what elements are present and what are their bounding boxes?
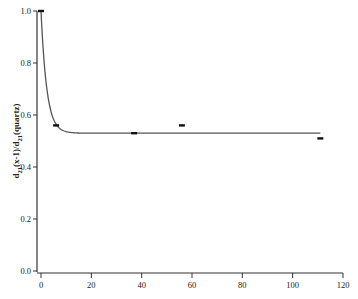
data-point-marker (38, 10, 44, 12)
x-tick-label: 60 (188, 280, 197, 290)
fit-curve (41, 11, 320, 133)
data-point-marker (317, 137, 323, 139)
y-axis-title: d21(x-1)/d21(quartz) (11, 103, 23, 178)
chart: 0.00.20.40.60.81.0 020406080100120 d21(x… (0, 0, 358, 299)
y-tick-label: 0.6 (20, 110, 31, 120)
x-tick-label: 120 (337, 280, 350, 290)
x-tick-label: 80 (238, 280, 247, 290)
x-tick-label: 100 (286, 280, 299, 290)
x-axis: 020406080100120 (37, 273, 349, 290)
x-tick-label: 0 (39, 280, 43, 290)
data-points (38, 10, 323, 140)
y-tick-label: 0.0 (20, 266, 31, 276)
y-tick-label: 0.8 (20, 58, 31, 68)
y-axis: 0.00.20.40.60.81.0 (20, 6, 37, 276)
data-point-marker (179, 124, 185, 126)
x-tick-label: 20 (87, 280, 96, 290)
y-tick-label: 0.2 (20, 214, 31, 224)
data-point-marker (53, 124, 59, 126)
x-tick-label: 40 (137, 280, 146, 290)
y-tick-label: 1.0 (20, 6, 31, 16)
data-point-marker (131, 132, 137, 134)
